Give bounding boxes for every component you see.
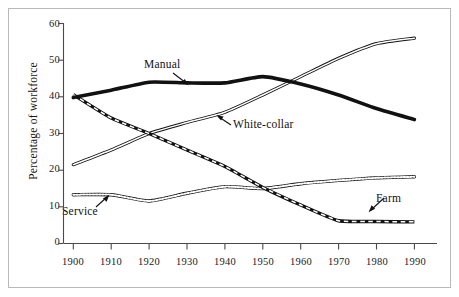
chart-plot-area — [0, 0, 459, 297]
chart-page: Percentage of workforce 60 50 40 30 20 1… — [0, 0, 459, 297]
series-line-farm — [73, 95, 414, 222]
x-axis-ticks — [73, 244, 414, 250]
leader-farm-arrowhead — [369, 205, 376, 212]
y-axis-ticks — [58, 24, 64, 244]
axes-group — [58, 23, 437, 250]
series-line-manual — [73, 77, 414, 120]
series-line-white-collar — [73, 38, 414, 165]
series-lines-group — [73, 38, 414, 222]
series-line-farm-core — [73, 95, 414, 222]
